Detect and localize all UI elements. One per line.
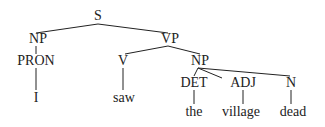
tree-node-pron: PRON <box>17 54 54 68</box>
tree-edge <box>125 46 168 54</box>
tree-node-w_village: village <box>222 105 260 119</box>
tree-node-np1: NP <box>29 32 47 46</box>
tree-node-n: N <box>286 76 296 90</box>
tree-node-np2: NP <box>191 54 209 68</box>
tree-edge <box>98 24 168 33</box>
tree-node-det: DET <box>180 76 207 90</box>
tree-node-w_dead: dead <box>280 105 306 119</box>
tree-node-s: S <box>94 9 102 23</box>
tree-node-vp: VP <box>161 32 179 46</box>
tree-node-adj: ADJ <box>230 76 256 90</box>
tree-node-w_the: the <box>185 105 202 119</box>
parse-tree-diagram: SNPVPPRONVNPDETADJNIsawthevillagedead <box>0 0 325 127</box>
tree-node-v: V <box>118 54 128 68</box>
tree-node-w_i: I <box>34 91 39 105</box>
tree-node-w_saw: saw <box>113 91 135 105</box>
